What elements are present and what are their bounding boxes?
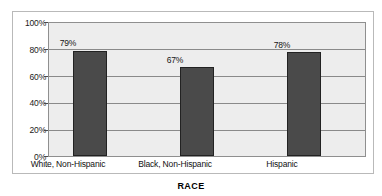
y-axis-tick-label-100: 100% [6,19,46,28]
y-axis-tick-label-20: 20% [6,126,46,135]
x-axis-title: RACE [0,181,382,191]
bar-value-hispanic: 78% [265,41,299,50]
gridline-80 [49,49,365,50]
bar-value-black-non-hispanic: 67% [158,56,192,65]
bar-value-white-non-hispanic: 79% [51,39,85,48]
bar-hispanic[interactable] [287,52,321,156]
bar-black-non-hispanic[interactable] [180,67,214,156]
x-axis-category-label-black-non-hispanic: Black, Non-Hispanic [120,160,230,169]
y-axis-tick-label-60: 60% [6,73,46,82]
y-axis-tick-label-40: 40% [6,99,46,108]
x-axis-category-label-hispanic: Hispanic [227,160,337,169]
x-axis-category-label-white-non-hispanic: White, Non-Hispanic [13,160,123,169]
plot-area [48,22,366,157]
bar-white-non-hispanic[interactable] [73,51,107,156]
y-axis-tick-label-80: 80% [6,46,46,55]
